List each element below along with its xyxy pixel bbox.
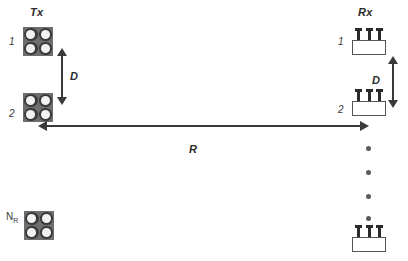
patch-icon [24,42,38,55]
patch-icon [39,28,53,41]
rx-spacing-arrow [388,56,399,108]
rx-ground-plane [352,101,386,116]
mimo-antenna-array-diagram: Tx 1 2 NR D Rx 1 [0,0,408,261]
range-label-r: R [189,143,197,155]
tx-element-2-label: 2 [9,108,15,119]
patch-icon [25,212,39,225]
patch-icon [39,42,53,55]
rx-element-1-monopole-array [352,28,386,55]
rx-element-1-label: 1 [338,36,344,47]
tx-element-2-patch-array [23,93,53,122]
tx-element-1-patch-array [23,27,53,56]
ellipsis-dot [366,146,371,151]
rx-ground-plane [352,40,386,55]
patch-icon [24,108,38,121]
rx-element-last-monopole-array [352,225,386,252]
patch-icon [25,226,39,239]
rx-spacing-label-d: D [372,74,380,86]
tx-spacing-label-d: D [70,70,78,82]
ellipsis-dot [366,216,371,221]
patch-icon [40,226,54,239]
rx-side-title: Rx [358,6,373,18]
tx-spacing-arrow [57,48,68,105]
patch-icon [24,94,38,107]
tx-element-n-label-sub: R [13,217,18,224]
patch-icon [40,212,54,225]
ellipsis-dot [366,170,371,175]
patch-icon [24,28,38,41]
rx-element-2-monopole-array [352,89,386,116]
tx-element-1-label: 1 [9,36,15,47]
patch-icon [39,108,53,121]
rx-element-2-label: 2 [338,104,344,115]
ellipsis-dot [366,194,371,199]
tx-element-n-patch-array [24,211,54,240]
tx-element-n-label: NR [6,211,18,224]
range-arrow [38,121,369,132]
rx-ground-plane [352,237,386,252]
tx-side-title: Tx [30,6,43,18]
patch-icon [39,94,53,107]
